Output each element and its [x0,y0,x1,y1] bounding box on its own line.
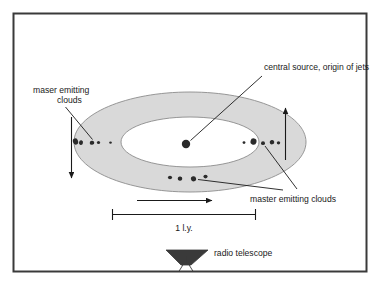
label-central-source: central source, origin of jets [264,62,369,72]
maser-cloud [109,141,112,143]
central-source-dot [182,140,190,148]
radio-astronomy-diagram: central source, origin of jets maser emi… [0,0,380,286]
label-maser-clouds-left-line2: clouds [57,95,82,105]
maser-cloud [168,176,172,180]
label-scale-bar: 1 l.y. [175,223,193,233]
maser-cloud [97,141,100,144]
label-radio-telescope: radio telescope [214,248,273,258]
label-maser-clouds-left-line1: maser emitting [33,85,90,95]
maser-cloud [203,175,207,179]
maser-cloud [243,141,246,144]
label-maser-clouds-right: master emitting clouds [250,194,336,204]
maser-cloud [277,141,280,144]
maser-cloud [261,141,265,145]
